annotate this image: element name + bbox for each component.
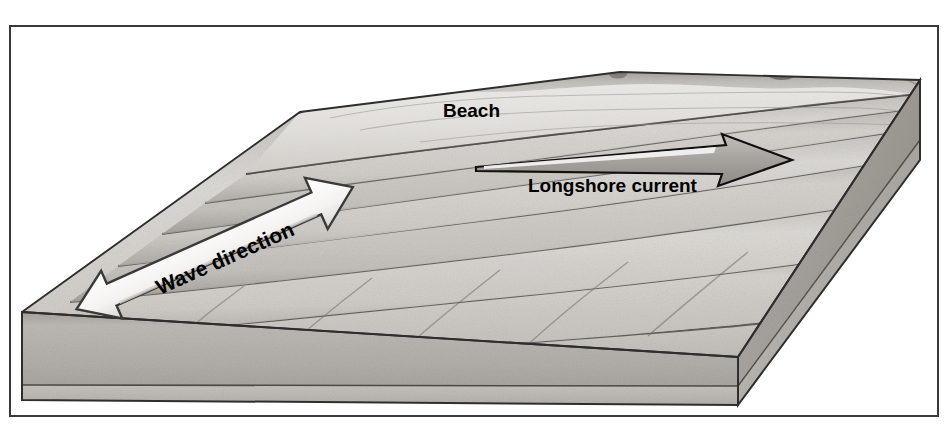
beach-label: Beach [443, 100, 500, 121]
longshore-current-label: Longshore current [528, 175, 698, 196]
front-face-layer-line [22, 385, 738, 386]
longshore-current-diagram: Beach Longshore current Wave direction [0, 0, 948, 429]
figure-root: Beach Longshore current Wave direction [0, 0, 948, 429]
